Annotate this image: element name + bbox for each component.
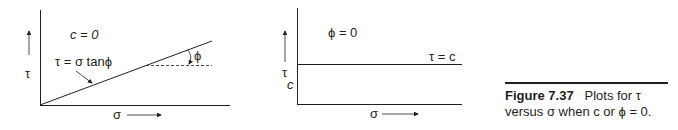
left-x-axis-label: σ [113, 108, 121, 121]
equation-pointer-arrow [76, 71, 92, 83]
failure-envelope-line [40, 41, 212, 105]
left-equation-label: τ = σ tanϕ [55, 55, 112, 68]
cohesion-line-label: τ = c [429, 50, 455, 63]
left-y-axis-label: τ [25, 67, 30, 80]
angle-phi-label: ϕ [194, 49, 201, 62]
figure-caption: Figure 7.37 Plots for τ versus σ when c … [505, 88, 675, 120]
caption-line2: versus σ when c or ϕ = 0. [505, 104, 651, 119]
right-y-axis-label: τ [282, 66, 287, 79]
caption-rule [505, 82, 668, 84]
caption-line1: Plots for τ [584, 88, 640, 103]
intercept-c-label: c [287, 78, 294, 91]
right-condition-label: ϕ = 0 [328, 26, 357, 39]
angle-arc-icon [188, 50, 191, 64]
left-condition-label: c = 0 [70, 28, 99, 41]
right-x-axis-label: σ [370, 107, 378, 120]
figure-number: Figure 7.37 [505, 88, 574, 103]
